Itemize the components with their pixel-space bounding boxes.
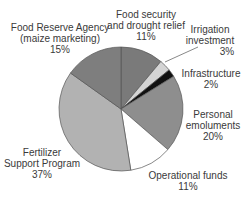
label-operational: Operational funds 11% [149,170,228,192]
label-food-security: Food security and drought relief 11% [107,9,185,42]
label-text: Operational funds [149,170,228,181]
label-text: Personal [186,109,240,120]
label-pct: 37% [4,169,80,180]
label-text: Support Program [4,158,80,169]
label-pct: 20% [186,131,240,142]
label-text: emoluments [186,120,240,131]
label-irrigation: Irrigation investment 3% [186,24,234,57]
label-text: Infrastructure [182,68,241,79]
label-text: (maize marketing) [11,33,109,44]
label-text: Food security [107,9,185,20]
label-fra: Food Reserve Agency (maize marketing) 15… [11,22,109,55]
label-text: Fertilizer [4,147,80,158]
label-infrastructure: Infrastructure 2% [182,68,241,90]
label-text: Food Reserve Agency [11,22,109,33]
label-text: and drought relief [107,20,185,31]
label-pct: 11% [107,31,185,42]
label-pct: 3% [186,46,234,57]
label-text: investment [186,35,234,46]
label-fertilizer: Fertilizer Support Program 37% [4,147,80,180]
label-pct: 15% [11,44,109,55]
label-text: Irrigation [186,24,234,35]
label-pct: 11% [149,181,228,192]
label-pct: 2% [182,79,241,90]
label-personal: Personal emoluments 20% [186,109,240,142]
